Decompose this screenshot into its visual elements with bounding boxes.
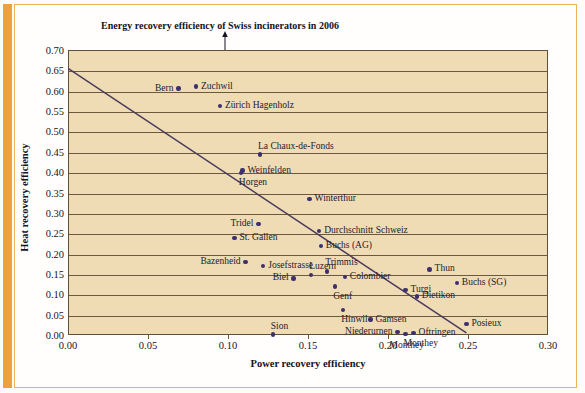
point-label: Zuchwil xyxy=(201,82,233,92)
x-tick-mark xyxy=(228,335,229,339)
x-tick-label: 0.05 xyxy=(139,340,157,351)
page-canvas: Energy recovery efficiency of Swiss inci… xyxy=(0,0,585,393)
point-label: Zürich Hagenholz xyxy=(225,101,294,111)
trend-line xyxy=(68,50,548,335)
x-tick-label: 0.15 xyxy=(299,340,317,351)
point-label: Josefstrasse xyxy=(268,261,313,271)
point-label: Genf xyxy=(333,292,352,302)
x-tick-mark xyxy=(308,335,309,339)
title-pointer-arrow xyxy=(219,31,231,51)
y-tick-label: 0.00 xyxy=(46,330,64,341)
y-tick-label: 0.40 xyxy=(46,167,64,178)
point-label-monthey: Monthey xyxy=(390,340,424,350)
x-tick-label: 0.30 xyxy=(539,340,557,351)
point-label: Dietikon xyxy=(422,292,455,302)
y-tick-label: 0.70 xyxy=(46,45,64,56)
point-label: Tridel xyxy=(231,220,254,230)
point-label: Weinfelden xyxy=(247,166,291,176)
x-tick-mark xyxy=(148,335,149,339)
data-point[interactable] xyxy=(368,317,372,321)
point-label: St. Gallen xyxy=(239,233,277,243)
data-point[interactable] xyxy=(271,332,275,336)
data-point[interactable] xyxy=(176,86,180,90)
y-tick-label: 0.05 xyxy=(46,309,64,320)
point-label: Oftringen xyxy=(419,328,456,338)
point-label: Luzern xyxy=(309,262,336,272)
y-tick-label: 0.20 xyxy=(46,248,64,259)
y-tick-label: 0.55 xyxy=(46,106,64,117)
data-point[interactable] xyxy=(194,84,198,88)
point-label: Bern xyxy=(155,84,173,94)
data-point[interactable] xyxy=(415,294,419,298)
x-axis-ticks: 0.000.050.100.150.200.250.30 xyxy=(68,340,548,356)
point-label: Gamsen xyxy=(375,315,406,325)
data-point[interactable] xyxy=(403,332,407,336)
point-label: Buchs (SG) xyxy=(462,278,507,288)
y-axis-title: Heat recovery efficiency xyxy=(19,98,30,298)
data-point[interactable] xyxy=(258,152,262,156)
y-tick-label: 0.45 xyxy=(46,146,64,157)
point-label: Hinwil xyxy=(341,315,367,325)
y-tick-label: 0.30 xyxy=(46,207,64,218)
point-label: Bazenheid xyxy=(201,257,241,267)
data-point[interactable] xyxy=(464,322,468,326)
point-label: Horgen xyxy=(239,178,267,188)
point-label: Winterthur xyxy=(315,194,356,204)
data-point[interactable] xyxy=(232,236,236,240)
point-label: Posieux xyxy=(471,319,501,329)
data-point[interactable] xyxy=(243,260,247,264)
point-label: Thun xyxy=(435,265,455,275)
x-tick-label: 0.10 xyxy=(219,340,237,351)
y-tick-label: 0.15 xyxy=(46,268,64,279)
data-point[interactable] xyxy=(427,267,431,271)
y-tick-label: 0.65 xyxy=(46,65,64,76)
data-point[interactable] xyxy=(411,331,415,335)
y-axis-ticks: 0.000.050.100.150.200.250.300.350.400.45… xyxy=(0,50,64,335)
scatter-chart: Energy recovery efficiency of Swiss inci… xyxy=(0,0,585,393)
x-tick-mark xyxy=(468,335,469,339)
point-label: Durchschnitt Schweiz xyxy=(324,226,408,236)
x-tick-label: 0.25 xyxy=(459,340,477,351)
y-tick-label: 0.10 xyxy=(46,289,64,300)
data-point[interactable] xyxy=(239,171,243,175)
point-label: Buchs (AG) xyxy=(326,241,372,251)
y-tick-label: 0.35 xyxy=(46,187,64,198)
y-tick-label: 0.60 xyxy=(46,85,64,96)
data-point[interactable] xyxy=(307,197,311,201)
point-label: Niederurnen xyxy=(345,327,392,337)
y-tick-label: 0.25 xyxy=(46,228,64,239)
data-point[interactable] xyxy=(291,276,295,280)
data-point[interactable] xyxy=(455,281,459,285)
x-tick-label: 0.00 xyxy=(59,340,77,351)
point-label: La Chaux-de-Fonds xyxy=(258,142,334,152)
x-axis-title: Power recovery efficiency xyxy=(68,358,548,369)
point-label: Colombier xyxy=(350,272,391,282)
point-label: Biel xyxy=(273,274,289,284)
chart-title: Energy recovery efficiency of Swiss inci… xyxy=(60,20,380,31)
y-tick-label: 0.50 xyxy=(46,126,64,137)
point-label: Sion xyxy=(271,322,288,332)
